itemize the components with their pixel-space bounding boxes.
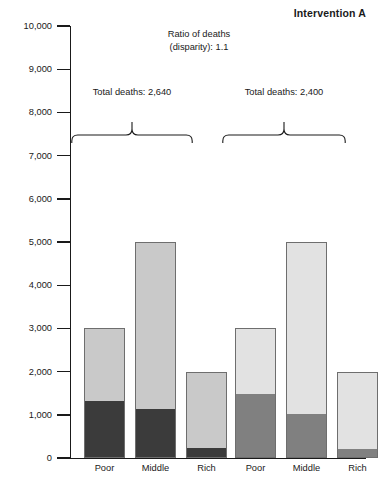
bar-segment-remainder bbox=[287, 243, 326, 414]
y-axis-tick-label: 2,000 bbox=[29, 365, 52, 379]
y-axis-tick-mark bbox=[57, 285, 70, 286]
y-axis-tick-mark bbox=[57, 328, 70, 329]
bar-segment-remainder bbox=[136, 243, 175, 409]
group-total-label: Total deaths: 2,640 bbox=[71, 87, 193, 97]
y-axis-tick-label: 0 bbox=[47, 451, 52, 465]
group-total-label: Total deaths: 2,400 bbox=[222, 87, 346, 97]
group-bracket bbox=[222, 121, 346, 143]
y-axis-tick-mark bbox=[57, 69, 70, 70]
y-axis-tick-label: 3,000 bbox=[29, 321, 52, 335]
bar-segment-deaths bbox=[236, 394, 275, 457]
category-label-group-1-middle: Middle bbox=[135, 463, 176, 473]
y-axis-tick-mark bbox=[57, 155, 70, 156]
y-axis-tick-mark bbox=[57, 457, 70, 458]
y-axis-tick-label: 5,000 bbox=[29, 235, 52, 249]
y-axis-tick-mark bbox=[57, 112, 70, 113]
group-bracket bbox=[71, 121, 193, 143]
bar-group-2-rich[interactable] bbox=[337, 372, 378, 458]
bar-segment-deaths bbox=[287, 414, 326, 457]
bar-segment-deaths bbox=[187, 448, 226, 457]
y-axis-tick-label: 4,000 bbox=[29, 278, 52, 292]
y-axis-tick-label: 8,000 bbox=[29, 105, 52, 119]
bar-group-1-poor[interactable] bbox=[84, 328, 125, 458]
bar-segment-deaths bbox=[85, 401, 124, 457]
bar-segment-deaths bbox=[338, 449, 377, 457]
bar-group-2-poor[interactable] bbox=[235, 328, 276, 458]
y-axis-tick-mark bbox=[57, 241, 70, 242]
y-axis-tick-mark bbox=[57, 198, 70, 199]
category-label-group-1-poor: Poor bbox=[84, 463, 125, 473]
bar-segment-remainder bbox=[85, 329, 124, 400]
bar-segment-remainder bbox=[187, 373, 226, 449]
bar-segment-remainder bbox=[338, 373, 377, 450]
y-axis-tick-label: 9,000 bbox=[29, 62, 52, 76]
category-label-group-2-middle: Middle bbox=[286, 463, 327, 473]
y-axis-tick-label: 7,000 bbox=[29, 149, 52, 163]
y-axis-tick-label: 10,000 bbox=[24, 19, 52, 33]
y-axis-tick-label: 6,000 bbox=[29, 192, 52, 206]
chart-title: Intervention A bbox=[294, 7, 366, 19]
y-axis-tick-mark bbox=[57, 371, 70, 372]
bar-segment-deaths bbox=[136, 409, 175, 457]
bar-group-2-middle[interactable] bbox=[286, 242, 327, 458]
category-label-group-2-poor: Poor bbox=[235, 463, 276, 473]
bar-group-1-rich[interactable] bbox=[186, 372, 227, 458]
bar-segment-remainder bbox=[236, 329, 275, 394]
y-axis-tick-mark bbox=[57, 25, 70, 26]
category-label-group-2-rich: Rich bbox=[337, 463, 378, 473]
bar-group-1-middle[interactable] bbox=[135, 242, 176, 458]
y-axis-tick-mark bbox=[57, 414, 70, 415]
y-axis-tick-label: 1,000 bbox=[29, 408, 52, 422]
category-label-group-1-rich: Rich bbox=[186, 463, 227, 473]
